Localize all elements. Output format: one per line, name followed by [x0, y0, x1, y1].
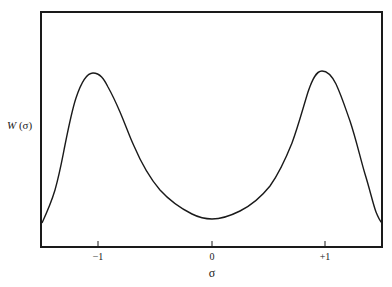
- x-tick-label-plus-1: +1: [320, 251, 331, 262]
- chart-plot-area: [0, 0, 392, 287]
- x-tick-label-minus-1: −1: [93, 251, 104, 262]
- data-curve-w-sigma: [42, 71, 382, 223]
- chart-frame: [41, 12, 382, 247]
- x-tick-label-0: 0: [210, 251, 215, 262]
- y-axis-label: W (σ): [7, 119, 32, 131]
- y-axis-label-arg: (σ): [19, 119, 32, 131]
- x-axis-label: σ: [209, 266, 215, 281]
- y-axis-label-func: W: [7, 119, 16, 131]
